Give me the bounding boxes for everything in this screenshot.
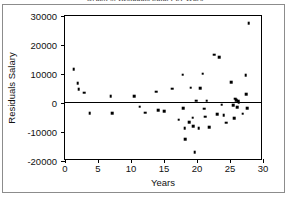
data-point <box>233 117 236 120</box>
data-point <box>199 87 202 90</box>
chart-title: Graph of Residuals Salary by Years <box>0 0 290 1</box>
data-point <box>73 68 76 71</box>
data-point <box>157 109 160 112</box>
data-point <box>163 110 166 113</box>
data-point <box>111 112 114 115</box>
data-point <box>197 127 200 130</box>
data-point <box>182 73 185 76</box>
data-point <box>238 102 241 105</box>
data-point <box>236 106 239 109</box>
data-point <box>244 74 247 77</box>
data-point <box>77 82 80 85</box>
data-point <box>178 118 181 121</box>
x-axis-tick-label: 15 <box>159 164 170 174</box>
data-point <box>191 116 194 119</box>
y-axis-title: Residuals Salary <box>6 0 18 175</box>
y-axis-tick-label: -20000 <box>27 157 57 167</box>
data-point <box>245 93 248 96</box>
x-axis-tick-label: 30 <box>258 164 269 174</box>
data-point <box>201 73 204 76</box>
data-point <box>205 100 208 103</box>
x-axis-tick-label: 0 <box>62 164 67 174</box>
data-point <box>220 104 223 107</box>
data-point <box>77 88 80 91</box>
chart-figure: Graph of Residuals Salary by Years -2000… <box>0 0 290 198</box>
data-point <box>189 86 192 89</box>
x-axis-tick-label: 5 <box>95 164 100 174</box>
data-point <box>193 151 196 154</box>
data-point <box>182 107 185 110</box>
data-point <box>248 22 251 25</box>
zero-reference-line <box>64 102 262 103</box>
data-point <box>204 115 207 118</box>
data-point <box>230 81 233 84</box>
data-point <box>195 99 198 102</box>
data-point <box>183 127 186 130</box>
data-point <box>246 107 249 110</box>
data-point <box>188 121 191 124</box>
data-point <box>83 91 86 94</box>
data-point <box>88 112 91 115</box>
y-axis-tick-label: 30000 <box>31 12 57 22</box>
y-axis-tick-label: 0 <box>52 99 57 109</box>
data-point <box>218 56 221 59</box>
data-point <box>155 90 158 93</box>
data-point <box>216 113 219 116</box>
x-axis-tick-label: 20 <box>192 164 203 174</box>
data-point <box>110 95 113 98</box>
x-axis-title: Years <box>64 178 262 188</box>
data-point <box>184 138 187 141</box>
data-point <box>139 105 142 108</box>
data-point <box>222 114 225 117</box>
y-axis-tick-label: 10000 <box>31 70 57 80</box>
y-axis-tick-label: 20000 <box>31 41 57 51</box>
x-axis-tick-label: 10 <box>126 164 137 174</box>
x-axis-tick-label: 25 <box>225 164 236 174</box>
data-point <box>171 87 174 90</box>
y-axis-tick-label: -10000 <box>27 128 57 138</box>
data-point <box>144 111 147 114</box>
data-point <box>192 125 195 128</box>
data-point <box>213 53 216 56</box>
data-point <box>208 126 211 129</box>
data-point <box>232 104 235 107</box>
data-point <box>133 95 136 98</box>
y-axis-title-label: Residuals Salary <box>7 52 17 123</box>
data-point <box>203 107 206 110</box>
data-point <box>225 122 228 125</box>
data-point <box>242 113 245 116</box>
scatter-plot-area <box>64 15 262 160</box>
